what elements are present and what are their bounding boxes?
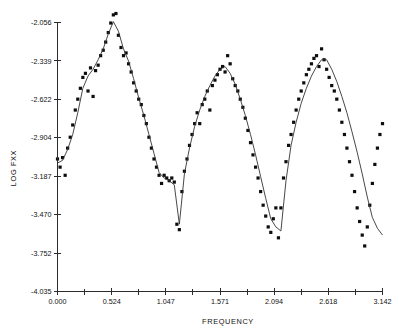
axis-layer [54, 22, 383, 296]
data-point [274, 206, 277, 209]
x-tick-label: 1.571 [211, 297, 229, 306]
data-point [292, 121, 295, 124]
data-point [170, 176, 173, 179]
data-point [272, 217, 275, 220]
data-point [76, 98, 79, 101]
data-series-layer [56, 12, 384, 248]
y-tick-label: -2.904 [31, 133, 51, 142]
data-point [376, 147, 379, 150]
data-point [81, 76, 84, 79]
data-point [378, 133, 381, 136]
data-point [325, 68, 328, 71]
data-point [277, 236, 280, 239]
data-point [208, 108, 211, 111]
data-point [287, 144, 290, 147]
data-point [284, 160, 287, 163]
data-point [295, 108, 298, 111]
x-tick-label: 0.524 [103, 297, 121, 306]
data-point [79, 87, 82, 90]
data-point [114, 12, 117, 15]
y-tick-label: -3.752 [31, 249, 51, 258]
data-point [64, 174, 67, 177]
data-point [353, 190, 356, 193]
data-point [223, 70, 226, 73]
data-point [229, 62, 232, 65]
data-point [363, 244, 366, 247]
spectral-density-chart: -2.056-2.339-2.622-2.904-3.187-3.470-3.7… [0, 0, 399, 334]
fitted-line [58, 22, 383, 235]
data-point [330, 84, 333, 87]
y-tick-label: -2.056 [31, 18, 51, 27]
data-point [343, 133, 346, 136]
data-point [226, 54, 229, 57]
data-point [84, 72, 87, 75]
data-point [58, 166, 61, 169]
y-axis-title: LOG FXX [9, 150, 18, 186]
data-point [119, 46, 122, 49]
data-point [297, 98, 300, 101]
data-point [366, 225, 369, 228]
data-point [251, 153, 254, 156]
data-point [71, 123, 74, 126]
data-point [173, 180, 176, 183]
data-point [305, 73, 308, 76]
y-tick-label: -2.622 [31, 95, 51, 104]
data-point [249, 141, 252, 144]
data-point [338, 108, 341, 111]
data-point [262, 204, 265, 207]
data-point [289, 133, 292, 136]
data-point [86, 89, 89, 92]
data-point [350, 174, 353, 177]
data-point [333, 89, 336, 92]
chart-canvas: -2.056-2.339-2.622-2.904-3.187-3.470-3.7… [0, 0, 399, 334]
data-point [97, 64, 100, 67]
data-point [198, 122, 201, 125]
x-tick-label: 2.094 [265, 297, 283, 306]
data-point [361, 233, 364, 236]
data-point [371, 182, 374, 185]
data-point [315, 54, 318, 57]
data-point [328, 76, 331, 79]
x-tick-label: 2.618 [319, 297, 337, 306]
data-point [256, 176, 259, 179]
data-point [345, 147, 348, 150]
data-point [160, 182, 163, 185]
data-point [300, 89, 303, 92]
data-point [340, 121, 343, 124]
y-tick-label: -3.470 [31, 210, 51, 219]
x-tick-label: 1.047 [157, 297, 175, 306]
data-point [335, 98, 338, 101]
y-tick-label: -2.339 [31, 57, 51, 66]
data-point [358, 220, 361, 223]
data-point [269, 231, 272, 234]
data-point [264, 214, 267, 217]
data-point [175, 223, 178, 226]
data-point [373, 163, 376, 166]
data-point [356, 206, 359, 209]
data-point [94, 69, 97, 72]
x-tick-label: 0.000 [49, 297, 67, 306]
x-axis-title: FREQUENCY [202, 317, 254, 326]
data-point [91, 95, 94, 98]
data-point [259, 190, 262, 193]
data-point [310, 62, 313, 65]
data-point [74, 108, 77, 111]
data-point [279, 206, 282, 209]
axis-label-layer: -2.056-2.339-2.622-2.904-3.187-3.470-3.7… [31, 18, 391, 305]
data-point [89, 66, 92, 69]
y-tick-label: -4.035 [31, 287, 51, 296]
data-point [178, 228, 181, 231]
data-point [348, 160, 351, 163]
data-point [211, 84, 214, 87]
data-point [254, 166, 257, 169]
data-point [282, 176, 285, 179]
data-point [302, 81, 305, 84]
x-tick-label: 3.142 [374, 297, 392, 306]
y-tick-label: -3.187 [31, 172, 51, 181]
data-point [267, 225, 270, 228]
data-point [307, 68, 310, 71]
data-point [381, 122, 384, 125]
data-point [320, 47, 323, 50]
